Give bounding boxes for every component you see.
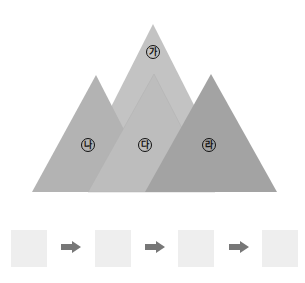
label-ga: 가: [146, 45, 160, 59]
step-box-4: [262, 230, 298, 267]
label-na: 나: [81, 138, 95, 152]
arrow-right-icon: [229, 241, 249, 253]
step-box-2: [95, 230, 131, 267]
arrow-right-icon: [145, 241, 165, 253]
arrow-right-icon: [61, 241, 81, 253]
step-box-3: [178, 230, 214, 267]
step-box-1: [11, 230, 47, 267]
label-da: 다: [138, 138, 152, 152]
triangles-svg: [0, 0, 305, 200]
mountain-diagram: 가 나 다 라: [0, 0, 305, 200]
label-ra: 라: [202, 138, 216, 152]
